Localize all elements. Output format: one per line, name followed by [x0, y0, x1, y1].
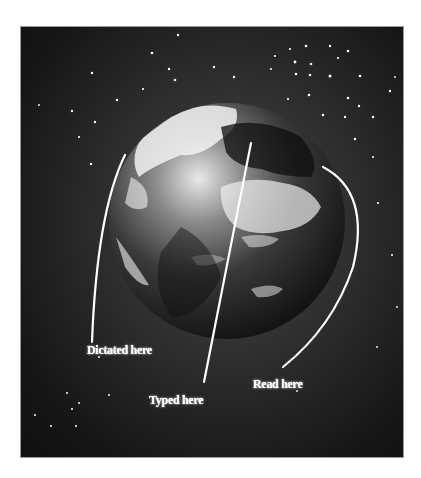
label-read-here: Read here	[253, 377, 302, 392]
figure-frame: Dictated here Typed here Read here	[20, 26, 404, 458]
space-scene	[21, 27, 403, 457]
earth-globe	[109, 103, 345, 339]
label-typed-here: Typed here	[149, 393, 203, 408]
label-dictated-here: Dictated here	[87, 343, 152, 358]
